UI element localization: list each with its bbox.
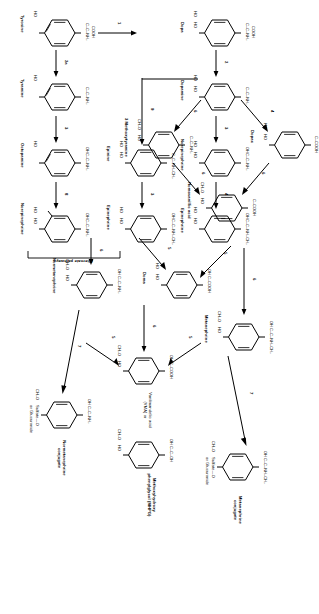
ring-group-ho: HO [192,75,197,81]
label-metanephrine: Metanephrine [203,315,208,343]
arrow-step-6d [172,100,202,134]
chain-octopamine-oh: OH [85,147,89,153]
ring-group-ho: HO [154,274,159,280]
arrow-step-3 [212,116,220,144]
ring-group-ho: HO [192,86,197,92]
label-mhpg: Methoxyhydroxy phenylglycol (MHPG) [147,472,156,518]
chain-tyrosine-l1: C–C–NH₂ [85,23,89,41]
chain-norepi-alt-oh: OH [85,213,89,219]
chain-metanephrine-l1: C–C–NH–CH₃ [269,328,273,354]
arrow-step-6 [240,248,248,316]
label-3-methoxytyramine: 3 Methoxytyramine [123,118,128,157]
ring-group-ho: HO [118,141,123,147]
chain-epi-alt-l1: C–C–NH–CH₃ [171,219,175,245]
label-epinephrine: Epinephrine [179,208,184,233]
molecule-normetanephrine-conjugate [44,400,78,430]
step-number-6f: 6 [201,172,206,174]
arrow-step-5c [84,340,120,368]
ring-group-ho: HO [118,218,123,224]
ring-group-ch3o: CH₃O [199,182,204,193]
label-dopa: Dopa [179,22,184,33]
molecule-homovanillic-acid [209,193,243,223]
molecule-dopa [202,18,236,48]
ring-group-ho: HO [32,207,37,213]
molecule-tyrosine [42,18,76,48]
chain-normetanephrine-l1: C–C–NH₂ [117,276,121,294]
label-dopac: Dopac [249,130,254,143]
ring-group-sulfate: Sulfate—O [210,457,215,478]
chain-mhpg-oh: OH [169,439,173,445]
step-number-6b: 6 [99,249,104,251]
ring-group-ho: HO [32,141,37,147]
chain-epinephrine-oh: OH [245,213,249,219]
step-number-2a: 2a [64,60,69,65]
molecule-metanephrine [226,322,260,352]
arrow-step-1 [98,29,138,37]
molecule-mhpg [126,440,160,470]
step-number-5: 5 [167,247,172,249]
arrow-step-6e [240,163,270,197]
step-number-7b: 7 [77,345,82,347]
ring-group-ho: HO [118,152,123,158]
label-homovanillic-acid: Homovanillic acid [186,182,191,219]
molecule-norepinephrine [202,148,236,178]
step-number-7: 7 [249,392,254,394]
chain-dopa-l2: COOH [251,26,255,38]
step-number-5b: 5 [223,252,228,254]
ring-group-or-glucuronide: or Glucuronide [28,405,33,433]
ring-group-sulfate: Sulfate—O [34,405,39,426]
chain-methoxytyramine-l1: C–C–NH₂ [189,136,193,154]
ring-group-ch3o: CH₃O [64,259,69,270]
molecule-norepinephrine-alt [42,214,76,244]
ring-group-or-glucuronide: or Glucuronide [204,457,209,485]
arrow-step-6c [140,305,148,353]
ring-group-ch3o: CH₃O [116,429,121,440]
figure-page: HO C–C–NH₂ COOH Tyrosine 2a HO C–C–NH₂ T… [0,0,298,614]
arrow-step-6b [87,238,95,266]
ring-group-ho: HO [118,207,123,213]
step-number-2: 2 [224,61,229,63]
ring-group-ho: HO [192,11,197,17]
ring-group-ch3o: CH₃O [34,389,39,400]
chain-mhpg-l1: C–C–OH [169,446,173,462]
molecule-vma [126,356,160,386]
chain-epinephrine-l1: C–C–NH–CH₃ [245,219,249,245]
connector-dopamine-to-step9 [138,74,198,84]
arrow-step-3b [52,116,60,144]
arrow-step-2 [212,50,220,78]
ring-group-ho: HO [262,134,267,140]
label-normetanephrine: Normetanephrine [51,258,56,293]
step-number-5d: 5 [188,336,193,338]
chain-dopa-l1: C–C–NH₂ [245,23,249,41]
chain-norepi-alt-l1: C–C–NH₂ [85,219,89,237]
step-number-6c: 6 [152,325,157,327]
arrow-step-2a [52,50,60,78]
chain-octopamine-l1: C–C–NH₂ [85,153,89,171]
arrow-step-8 [52,182,60,210]
ring-group-ho: HO [262,123,267,129]
chain-epi-alt-oh: OH [171,213,175,219]
ring-group-ho: HO [32,218,37,224]
label-norepinephrine-alt: Norepinephrine [19,203,24,235]
ring-group-ho: HO [192,207,197,213]
molecule-tyramine [42,82,76,112]
step-number-5c: 5 [111,336,116,338]
label-epinephrine-alt: Epinephrine [105,205,110,230]
label-tyrosine: Tyrosine [19,15,24,33]
step-number-6: 6 [252,278,257,280]
step-number-3b: 3 [64,127,69,129]
molecule-doma [164,270,198,300]
ring-group-ho: HO [192,22,197,28]
ring-group-ho: HO [116,445,121,451]
ring-group-ho: HO [32,11,37,17]
ring-group-ch3o: CH₃O [136,119,141,130]
step-number-8: 8 [64,193,69,195]
arrow-step-5 [138,238,168,272]
chain-homovanillic-l1: C–COOH [252,199,256,216]
ring-group-ho: HO [192,218,197,224]
ring-group-ho: HO [32,75,37,81]
ring-group-ho: HO [136,135,141,141]
ring-group-ho: HO [64,275,69,281]
chain-tyrosine-l2: COOH [91,26,95,38]
chain-mconj-oh: OH [263,451,267,457]
